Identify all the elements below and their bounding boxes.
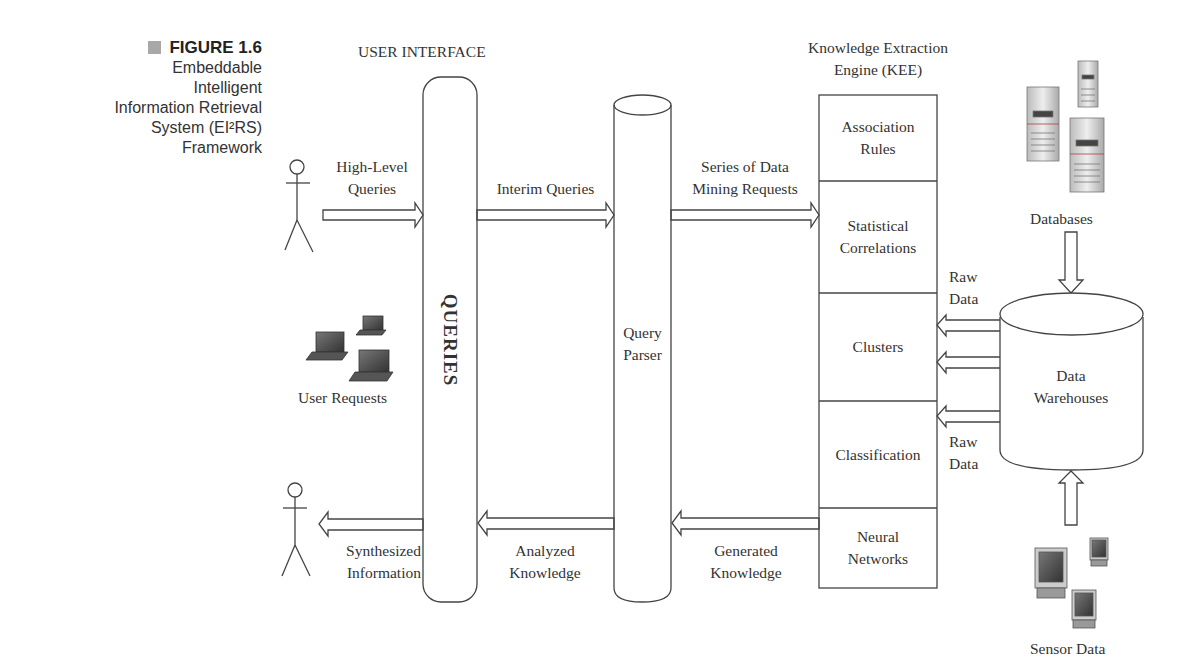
- kee-module-clusters: Clusters: [819, 293, 937, 401]
- kee-module-neural-networks: NeuralNetworks: [819, 508, 937, 588]
- arrow-synthesized-information: [319, 512, 423, 536]
- arrow-raw-data-3: [937, 406, 1000, 427]
- label-databases: Databases: [1030, 208, 1093, 230]
- desktop-computer-icon: [1035, 538, 1108, 628]
- server-tower-icon: [1027, 61, 1104, 192]
- kee-module-association-rules: AssociationRules: [819, 95, 937, 181]
- label-mining-requests: Series of Data Mining Requests: [671, 156, 819, 200]
- arrow-interim-queries: [477, 203, 614, 227]
- label-generated-knowledge: Generated Knowledge: [686, 540, 806, 584]
- kee-header: Knowledge Extraction Engine (KEE): [778, 37, 978, 81]
- label-data-warehouses: Data Warehouses: [1010, 365, 1132, 409]
- user-figure-bottom-icon: [282, 483, 310, 576]
- arrow-databases-down: [1059, 232, 1083, 293]
- kee-module-statistical-correlations: StatisticalCorrelations: [819, 181, 937, 293]
- label-high-level-queries: High-Level Queries: [322, 156, 422, 200]
- label-raw-data-bottom: Raw Data: [949, 431, 978, 475]
- laptop-icon: [306, 316, 393, 381]
- user-interface-label: QUERIES: [439, 294, 461, 387]
- arrow-raw-data-2: [937, 352, 1000, 373]
- user-interface-header: USER INTERFACE: [358, 41, 486, 63]
- label-raw-data-top: Raw Data: [949, 266, 978, 310]
- label-sensor-data: Sensor Data: [1030, 638, 1105, 660]
- user-figure-top-icon: [285, 160, 313, 252]
- query-parser-label: Query Parser: [614, 322, 671, 366]
- arrow-mining-requests: [671, 203, 819, 227]
- arrow-high-level-queries: [323, 203, 423, 227]
- kee-module-classification: Classification: [819, 401, 937, 508]
- label-user-requests: User Requests: [298, 387, 387, 409]
- label-analyzed-knowledge: Analyzed Knowledge: [490, 540, 600, 584]
- arrow-analyzed-knowledge: [478, 511, 614, 535]
- arrow-raw-data-1: [937, 315, 1000, 336]
- label-interim-queries: Interim Queries: [477, 178, 614, 200]
- arrow-generated-knowledge: [672, 511, 819, 535]
- label-synthesized-information: Synthesized Information: [318, 540, 421, 584]
- arrow-sensor-up: [1059, 471, 1083, 525]
